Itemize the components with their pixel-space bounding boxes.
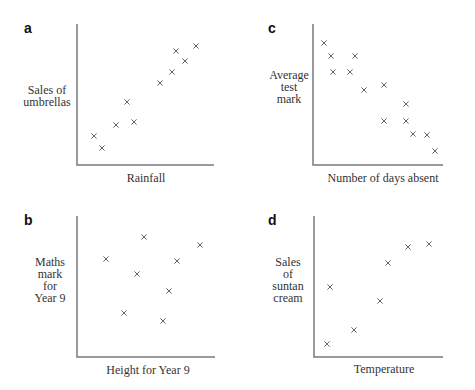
- scatter-plot-a: [77, 24, 214, 165]
- data-point-x-marker-icon: [91, 133, 96, 138]
- data-point-x-marker-icon: [321, 40, 326, 45]
- data-point-x-marker-icon: [131, 119, 136, 124]
- data-point-x-marker-icon: [410, 131, 415, 136]
- data-point-x-marker-icon: [99, 145, 104, 150]
- data-point-x-marker-icon: [403, 101, 408, 106]
- axes-c: [313, 24, 443, 165]
- data-point-x-marker-icon: [403, 118, 408, 123]
- axes-d: [314, 216, 443, 357]
- scatter-plot-d: [314, 216, 443, 357]
- data-point-x-marker-icon: [328, 53, 333, 58]
- data-point-x-marker-icon: [324, 341, 329, 346]
- axes-a: [77, 24, 214, 165]
- data-point-x-marker-icon: [160, 318, 165, 323]
- data-point-x-marker-icon: [405, 244, 410, 249]
- data-point-x-marker-icon: [134, 271, 139, 276]
- data-point-x-marker-icon: [432, 148, 437, 153]
- scatter-plot-b: [77, 216, 215, 357]
- data-point-x-marker-icon: [174, 258, 179, 263]
- data-point-x-marker-icon: [182, 58, 187, 63]
- data-point-x-marker-icon: [352, 53, 357, 58]
- data-point-x-marker-icon: [197, 242, 202, 247]
- data-point-x-marker-icon: [385, 260, 390, 265]
- data-point-x-marker-icon: [377, 298, 382, 303]
- data-point-x-marker-icon: [330, 69, 335, 74]
- data-point-x-marker-icon: [169, 69, 174, 74]
- data-point-x-marker-icon: [141, 234, 146, 239]
- scatter-plots-canvas: [0, 0, 475, 390]
- data-point-x-marker-icon: [113, 122, 118, 127]
- data-point-x-marker-icon: [347, 69, 352, 74]
- data-point-x-marker-icon: [426, 241, 431, 246]
- data-point-x-marker-icon: [124, 99, 129, 104]
- data-point-x-marker-icon: [351, 327, 356, 332]
- data-point-x-marker-icon: [121, 310, 126, 315]
- data-point-x-marker-icon: [193, 43, 198, 48]
- data-point-x-marker-icon: [327, 284, 332, 289]
- data-point-x-marker-icon: [157, 80, 162, 85]
- data-point-x-marker-icon: [381, 82, 386, 87]
- scatter-plot-c: [313, 24, 443, 165]
- data-point-x-marker-icon: [361, 87, 366, 92]
- data-point-x-marker-icon: [381, 118, 386, 123]
- axes-b: [77, 216, 215, 357]
- data-point-x-marker-icon: [424, 132, 429, 137]
- data-point-x-marker-icon: [173, 48, 178, 53]
- data-point-x-marker-icon: [103, 256, 108, 261]
- data-point-x-marker-icon: [166, 288, 171, 293]
